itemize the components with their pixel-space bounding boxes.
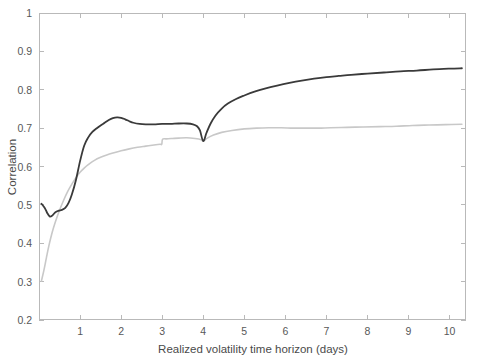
y-tick-label: 0.6 [17,161,32,173]
x-tick-label: 10 [444,325,456,337]
x-tick-label: 1 [77,325,83,337]
x-tick-label: 2 [118,325,124,337]
x-axis-title: Realized volatility time horizon (days) [158,343,348,355]
x-tick-label: 9 [406,325,412,337]
x-tick-label: 3 [159,325,165,337]
y-tick-label: 0.8 [17,84,32,96]
y-tick-label: 0.7 [17,122,32,134]
tick-marks-group [39,13,466,320]
y-tick-label: 0.2 [17,314,32,326]
y-axis-title: Correlation [6,139,18,195]
y-tick-label: 0.4 [17,237,32,249]
x-tick-label: 7 [323,325,329,337]
correlation-line-chart: 12345678910 0.20.30.40.50.60.70.80.91 Re… [0,0,477,361]
y-tick-label: 1 [26,7,32,19]
series-group [41,68,461,281]
y-tick-label: 0.9 [17,45,32,57]
y-tick-label: 0.3 [17,276,32,288]
axis-frame [40,14,466,320]
x-tick-label: 8 [365,325,371,337]
x-tick-labels-group: 12345678910 [77,325,455,337]
y-tick-label: 0.5 [17,199,32,211]
y-tick-labels-group: 0.20.30.40.50.60.70.80.91 [17,7,32,326]
x-tick-label: 4 [200,325,206,337]
series-line-light-series [41,124,461,281]
x-tick-label: 5 [241,325,247,337]
series-line-dark-series [41,68,461,216]
chart-figure: 12345678910 0.20.30.40.50.60.70.80.91 Re… [0,0,477,361]
x-tick-label: 6 [282,325,288,337]
